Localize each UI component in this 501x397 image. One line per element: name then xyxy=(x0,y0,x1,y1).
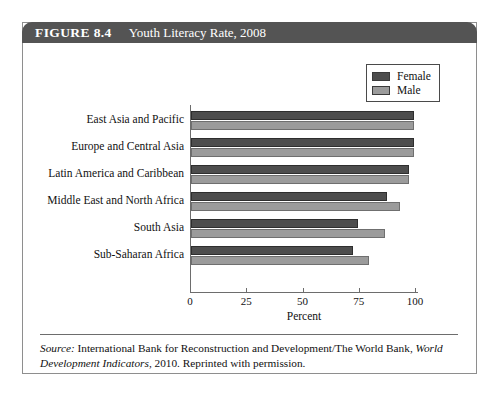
bar-male xyxy=(191,175,409,184)
figure-number: FIGURE 8.4 xyxy=(35,25,112,41)
figure-title: Youth Literacy Rate, 2008 xyxy=(129,25,266,41)
bar-male xyxy=(191,148,414,157)
bar-female xyxy=(191,246,353,255)
bar-group: Middle East and North Africa xyxy=(22,189,477,216)
bar-female xyxy=(191,138,414,147)
x-tick xyxy=(303,288,304,293)
x-tick xyxy=(190,288,191,293)
source-text-2: , 2010. Reprinted with permission. xyxy=(149,357,306,369)
chart-area: Female Male East Asia and PacificEurope … xyxy=(22,43,477,328)
x-tick xyxy=(415,288,416,293)
plot-area: East Asia and PacificEurope and Central … xyxy=(22,43,477,328)
bar-group: East Asia and Pacific xyxy=(22,108,477,135)
x-tick xyxy=(359,288,360,293)
category-label: Middle East and North Africa xyxy=(47,194,184,206)
bar-male xyxy=(191,202,400,211)
x-axis-title: Percent xyxy=(190,310,418,322)
figure-header: FIGURE 8.4 Youth Literacy Rate, 2008 xyxy=(22,22,477,43)
bar-female xyxy=(191,219,358,228)
category-label: Europe and Central Asia xyxy=(71,140,184,152)
bar-group: Latin America and Caribbean xyxy=(22,162,477,189)
source-text-1: International Bank for Reconstruction an… xyxy=(75,342,416,354)
x-tick-label: 0 xyxy=(187,295,193,307)
bar-group: Sub-Saharan Africa xyxy=(22,243,477,270)
source-label: Source: xyxy=(40,342,75,354)
source-note: Source: International Bank for Reconstru… xyxy=(40,341,460,371)
x-tick-label: 100 xyxy=(407,295,424,307)
bar-female xyxy=(191,111,414,120)
bar-male xyxy=(191,229,385,238)
x-tick-label: 25 xyxy=(241,295,252,307)
bar-female xyxy=(191,192,387,201)
category-label: East Asia and Pacific xyxy=(87,113,184,125)
bar-group: Europe and Central Asia xyxy=(22,135,477,162)
bar-male xyxy=(191,121,414,130)
category-label: South Asia xyxy=(134,221,184,233)
x-tick-label: 75 xyxy=(353,295,364,307)
category-label: Sub-Saharan Africa xyxy=(94,248,184,260)
bar-female xyxy=(191,165,409,174)
x-tick xyxy=(246,288,247,293)
source-divider xyxy=(40,334,458,335)
x-tick-label: 50 xyxy=(297,295,308,307)
category-label: Latin America and Caribbean xyxy=(48,167,184,179)
x-axis-line xyxy=(190,292,418,293)
bar-group: South Asia xyxy=(22,216,477,243)
bar-male xyxy=(191,256,369,265)
